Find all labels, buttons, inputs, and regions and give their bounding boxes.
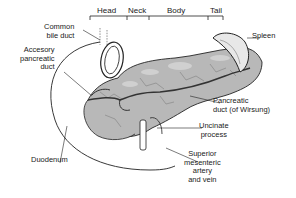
label-pancreatic-duct: Pancreatic duct (of Wirsung) xyxy=(213,97,270,114)
label-accessory-duct: Accesory pancreatic duct xyxy=(20,46,55,72)
region-label-body: Body xyxy=(167,7,185,16)
region-label-neck: Neck xyxy=(128,7,146,16)
label-superior-mesenteric: Superior mesenteric artery and vein xyxy=(184,150,221,184)
region-label-tail: Tail xyxy=(210,7,222,16)
label-common-bile-duct: Common bile duct xyxy=(44,23,74,40)
label-spleen: Spleen xyxy=(252,32,275,41)
label-uncinate-process: Uncinate process xyxy=(199,122,229,139)
region-bracket xyxy=(90,16,223,20)
label-duodenum: Duodenum xyxy=(31,156,68,165)
superior-mesenteric-vessels xyxy=(140,120,146,150)
region-label-head: Head xyxy=(97,7,116,16)
